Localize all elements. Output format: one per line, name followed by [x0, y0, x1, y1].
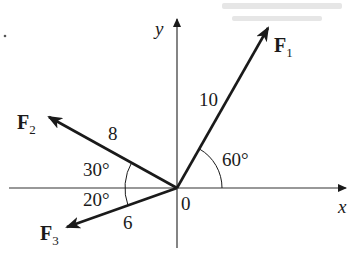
angle-arc-60 [200, 149, 223, 188]
x-axis-label: x [337, 196, 347, 217]
vector-f1-magnitude: 10 [199, 89, 218, 110]
vector-f1-label: F1 [274, 34, 293, 60]
y-axis-label: y [153, 18, 164, 39]
origin-label: 0 [181, 193, 191, 214]
bleed-through-text [4, 3, 342, 37]
vector-f3-label: F3 [40, 222, 59, 248]
vector-f2-label: F2 [17, 111, 36, 137]
force-diagram: y x 0 F1 F2 F3 10 8 6 60° 30° 20° [0, 0, 350, 253]
vector-f2-magnitude: 8 [108, 123, 118, 144]
angle-label-60: 60° [222, 149, 249, 170]
vector-f3-magnitude: 6 [123, 212, 133, 233]
angle-arc-30-20 [125, 162, 132, 206]
angle-label-20: 20° [83, 189, 110, 210]
angle-label-30: 30° [83, 159, 110, 180]
